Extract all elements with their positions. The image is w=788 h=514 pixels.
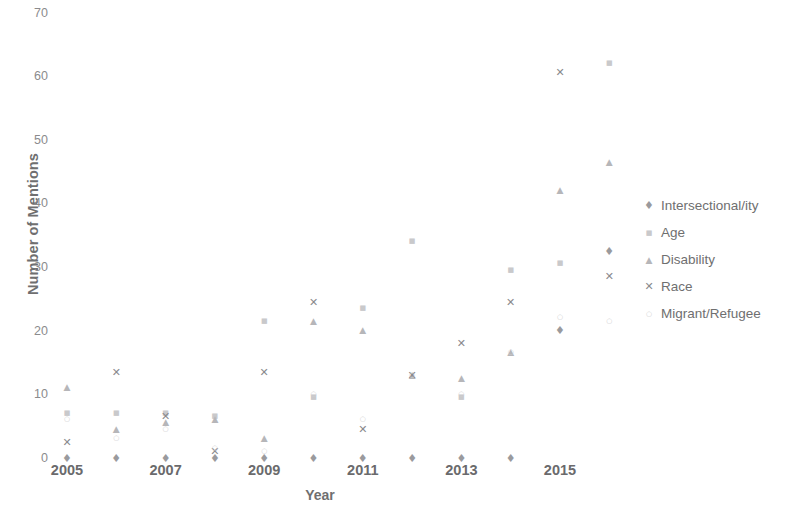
y-axis-tick: 40 (14, 197, 48, 209)
data-point: ♦ (110, 452, 123, 465)
data-point: ■ (504, 264, 517, 277)
legend-label: Intersectional/ity (658, 198, 759, 213)
data-point: ○ (603, 315, 616, 328)
data-point: ▲ (356, 324, 369, 337)
data-point: ■ (307, 391, 320, 404)
data-point: ✕ (159, 410, 172, 423)
y-axis-tick: 20 (14, 325, 48, 337)
legend-label: Race (658, 279, 693, 294)
data-point: ○ (406, 369, 419, 382)
data-point: ♦ (554, 324, 567, 337)
scatter-chart-figure: Number of Mentions 706050403020100 20052… (0, 0, 788, 514)
data-point: ○ (455, 388, 468, 401)
data-point: ■ (159, 407, 172, 420)
data-point: ▲ (504, 346, 517, 359)
data-point: ▲ (258, 432, 271, 445)
x-axis-tick: 2011 (328, 462, 398, 478)
data-point: ♦ (307, 452, 320, 465)
data-point: ✕ (208, 445, 221, 458)
data-point: ■ (406, 235, 419, 248)
data-point: ■ (61, 407, 74, 420)
legend-item-migrant-refugee: ○Migrant/Refugee (640, 300, 788, 327)
data-point: ▲ (455, 372, 468, 385)
data-point: ✕ (356, 423, 369, 436)
legend-item-race: ✕Race (640, 273, 788, 300)
data-point: ▲ (554, 184, 567, 197)
legend-marker-square-icon: ■ (640, 226, 658, 240)
data-point: ○ (258, 445, 271, 458)
data-point: ▲ (603, 156, 616, 169)
x-axis-tick: 2005 (32, 462, 102, 478)
data-point: ♦ (208, 452, 221, 465)
data-point: ■ (356, 302, 369, 315)
data-point: ♦ (504, 452, 517, 465)
data-point: ○ (356, 413, 369, 426)
chart-legend: ♦Intersectional/ity■Age▲Disability✕Race○… (640, 192, 788, 327)
data-point: ▲ (110, 423, 123, 436)
x-axis-tick: 2013 (426, 462, 496, 478)
data-point: ■ (455, 391, 468, 404)
y-axis-tick: 30 (14, 261, 48, 273)
legend-item-age: ■Age (640, 219, 788, 246)
y-axis-tick: 60 (14, 70, 48, 82)
data-point: ♦ (603, 245, 616, 258)
data-point: ✕ (406, 369, 419, 382)
data-point: ▲ (406, 369, 419, 382)
data-point: ▲ (307, 315, 320, 328)
x-axis-tick: 2015 (525, 462, 595, 478)
data-point: ■ (110, 407, 123, 420)
data-point: ○ (307, 388, 320, 401)
data-point: ▲ (208, 413, 221, 426)
data-point: ○ (61, 413, 74, 426)
data-point: ○ (159, 423, 172, 436)
data-point: ✕ (554, 66, 567, 79)
x-axis-tick: 2009 (229, 462, 299, 478)
legend-marker-cross-icon: ✕ (640, 280, 658, 294)
legend-marker-triangle-icon: ▲ (640, 253, 658, 267)
data-point: ✕ (307, 296, 320, 309)
y-axis-tick: 10 (14, 388, 48, 400)
x-axis-tick: 2007 (131, 462, 201, 478)
data-point: ✕ (603, 270, 616, 283)
data-point: ■ (554, 257, 567, 270)
legend-label: Age (658, 225, 685, 240)
legend-item-disability: ▲Disability (640, 246, 788, 273)
data-point: ○ (110, 432, 123, 445)
data-point: ■ (208, 410, 221, 423)
data-point: ■ (258, 315, 271, 328)
data-point: ✕ (258, 366, 271, 379)
legend-item-intersectional-ity: ♦Intersectional/ity (640, 192, 788, 219)
data-point: ○ (554, 311, 567, 324)
legend-label: Disability (658, 252, 715, 267)
data-point: ○ (208, 442, 221, 455)
legend-marker-chevron-icon: ○ (640, 307, 658, 321)
data-point: ▲ (159, 416, 172, 429)
data-point: ○ (504, 346, 517, 359)
data-point: ▲ (61, 381, 74, 394)
data-point: ✕ (455, 337, 468, 350)
legend-marker-diamond-icon: ♦ (640, 199, 658, 213)
data-point: ✕ (61, 436, 74, 449)
legend-label: Migrant/Refugee (658, 306, 761, 321)
x-axis-title: Year (0, 487, 640, 503)
data-point: ■ (603, 57, 616, 70)
data-point: ♦ (406, 452, 419, 465)
data-point: ✕ (110, 366, 123, 379)
y-axis-tick: 50 (14, 134, 48, 146)
y-axis-tick: 70 (14, 7, 48, 19)
data-point: ✕ (504, 296, 517, 309)
